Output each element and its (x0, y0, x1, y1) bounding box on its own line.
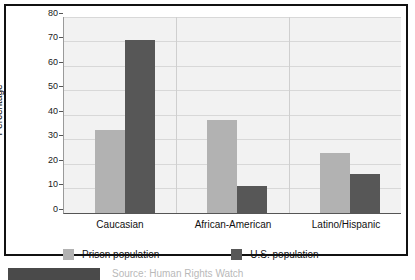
y-axis-title: Percentage (0, 84, 4, 135)
y-tick-80: 80 (48, 8, 58, 18)
bar-group-latino-hispanic (289, 17, 402, 213)
y-tick-0: 0 (53, 204, 58, 214)
y-tick-30: 30 (48, 130, 58, 140)
plot-area (63, 17, 401, 214)
chart-legend: Prison population U.S. population (63, 249, 319, 260)
caption-color-block (8, 268, 100, 280)
bar-chart-figure: Percentage 80 70 60 50 40 30 20 10 0 (0, 0, 415, 280)
x-label-caucasian: Caucasian (96, 219, 143, 230)
y-tick-20: 20 (48, 155, 58, 165)
y-tick-50: 50 (48, 81, 58, 91)
legend-item-us-population[interactable]: U.S. population (231, 249, 318, 260)
legend-label-prison: Prison population (82, 249, 159, 260)
bar-caucasian-us[interactable] (125, 40, 155, 213)
chart-frame: Percentage 80 70 60 50 40 30 20 10 0 (4, 4, 408, 256)
x-label-latino-hispanic: Latino/Hispanic (312, 219, 380, 230)
bar-latino-hispanic-prison[interactable] (320, 153, 350, 213)
caption-strip: Source: Human Rights Watch (0, 268, 415, 280)
legend-swatch-icon-us (231, 249, 242, 260)
y-tick-10: 10 (48, 179, 58, 189)
y-tick-40: 40 (48, 106, 58, 116)
caption-text: Source: Human Rights Watch (112, 268, 243, 279)
bar-latino-hispanic-us[interactable] (350, 174, 380, 213)
x-label-african-american: African-American (195, 219, 272, 230)
y-axis-ticks: 80 70 60 50 40 30 20 10 0 (6, 6, 63, 214)
legend-item-prison-population[interactable]: Prison population (63, 249, 159, 260)
bar-group-caucasian (64, 17, 176, 213)
y-tick-60: 60 (48, 57, 58, 67)
y-tick-70: 70 (48, 32, 58, 42)
bar-caucasian-prison[interactable] (95, 130, 125, 213)
y-tickmark-80 (59, 13, 63, 14)
legend-label-us: U.S. population (250, 249, 318, 260)
bar-african-american-prison[interactable] (207, 120, 237, 213)
bar-african-american-us[interactable] (237, 186, 267, 213)
legend-swatch-icon-prison (63, 249, 74, 260)
bar-group-african-american (176, 17, 289, 213)
